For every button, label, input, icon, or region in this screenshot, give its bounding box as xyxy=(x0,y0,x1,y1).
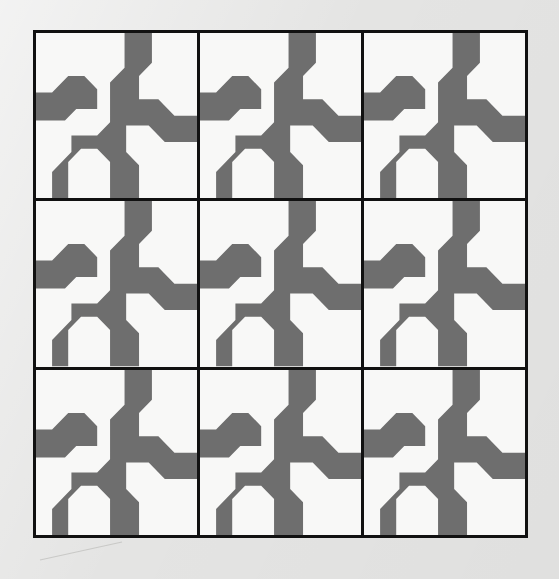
motif-shape-1 xyxy=(200,76,261,121)
tile-motif-interlocking-chevron-cross xyxy=(364,201,525,366)
motif-shape-1 xyxy=(200,244,261,289)
tile-motif-interlocking-chevron-cross xyxy=(36,33,197,198)
motif-shape-2 xyxy=(216,33,361,198)
tile-motif-interlocking-chevron-cross xyxy=(364,370,525,535)
tile-r1c3 xyxy=(364,33,525,198)
motif-shape-2 xyxy=(52,370,197,535)
tile-motif-interlocking-chevron-cross xyxy=(200,201,361,366)
motif-shape-2 xyxy=(216,370,361,535)
tile-motif-interlocking-chevron-cross xyxy=(36,201,197,366)
tile-r1c2 xyxy=(200,33,361,198)
motif-shape-1 xyxy=(364,244,425,289)
motif-shape-2 xyxy=(52,201,197,366)
tile-r3c1 xyxy=(36,370,197,535)
motif-shape-1 xyxy=(36,413,97,458)
motif-shape-1 xyxy=(36,76,97,121)
tile-r2c1 xyxy=(36,201,197,366)
tile-motif-interlocking-chevron-cross xyxy=(200,33,361,198)
motif-shape-1 xyxy=(364,413,425,458)
tile-r1c1 xyxy=(36,33,197,198)
motif-shape-2 xyxy=(380,370,525,535)
motif-shape-1 xyxy=(200,413,261,458)
tile-motif-interlocking-chevron-cross xyxy=(36,370,197,535)
tile-motif-interlocking-chevron-cross xyxy=(200,370,361,535)
tile-grid xyxy=(33,30,528,538)
motif-shape-1 xyxy=(36,244,97,289)
tile-r2c2 xyxy=(200,201,361,366)
motif-shape-2 xyxy=(380,33,525,198)
artwork-canvas xyxy=(0,0,559,579)
motif-shape-1 xyxy=(364,76,425,121)
tile-motif-interlocking-chevron-cross xyxy=(364,33,525,198)
tile-r3c3 xyxy=(364,370,525,535)
motif-shape-2 xyxy=(216,201,361,366)
motif-shape-2 xyxy=(52,33,197,198)
pencil-guide-mark xyxy=(38,540,124,562)
motif-shape-2 xyxy=(380,201,525,366)
tile-r2c3 xyxy=(364,201,525,366)
tile-r3c2 xyxy=(200,370,361,535)
